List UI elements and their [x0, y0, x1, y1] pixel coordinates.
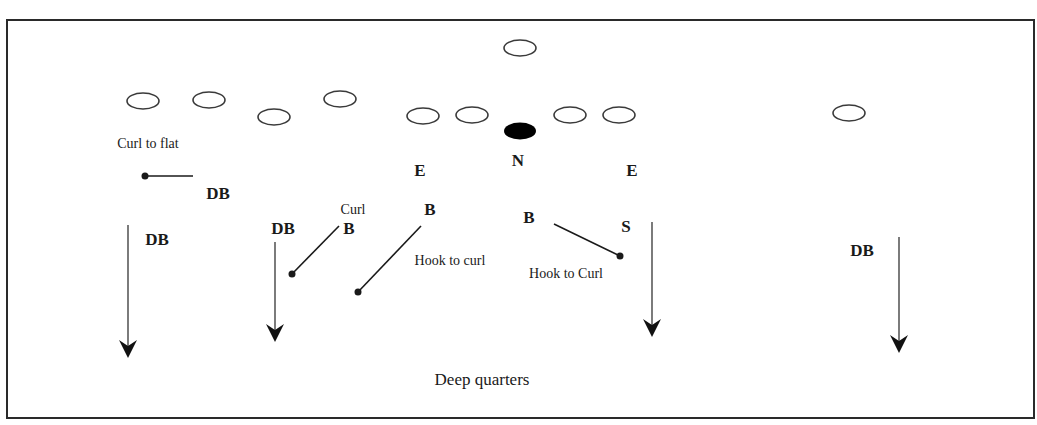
- drop-hook-right-endpoint-icon: [617, 253, 624, 260]
- diagram-frame: [7, 20, 1034, 418]
- deep-quarters-label: Deep quarters: [435, 370, 530, 389]
- safety-label: S: [621, 217, 630, 236]
- backer-left-label: B: [424, 200, 435, 219]
- db-left-flat-label: DB: [206, 184, 230, 203]
- hook-to-curl-left-label: Hook to curl: [415, 253, 486, 268]
- backer-mid-label: B: [523, 208, 534, 227]
- end-right-label: E: [626, 161, 637, 180]
- end-left-label: E: [414, 161, 425, 180]
- curl-label: Curl: [341, 202, 366, 217]
- drop-curl-endpoint-icon: [289, 271, 296, 278]
- coverage-diagram: DBENEBBSBDBDBDB Curl to flatCurlHook to …: [0, 0, 1037, 425]
- drop-curl-to-flat-endpoint-icon: [142, 173, 149, 180]
- db-right-deep-label: DB: [850, 241, 874, 260]
- nose-label: N: [512, 151, 525, 170]
- db-left-mid-label: DB: [271, 219, 295, 238]
- curl-to-flat-label: Curl to flat: [117, 136, 179, 151]
- backer-curl-label: B: [343, 219, 354, 238]
- db-left-deep-label: DB: [145, 230, 169, 249]
- drop-hook-left-endpoint-icon: [355, 289, 362, 296]
- center-ball-icon: [504, 123, 536, 140]
- center-ball: [504, 123, 536, 140]
- hook-to-curl-right-label: Hook to Curl: [529, 266, 603, 281]
